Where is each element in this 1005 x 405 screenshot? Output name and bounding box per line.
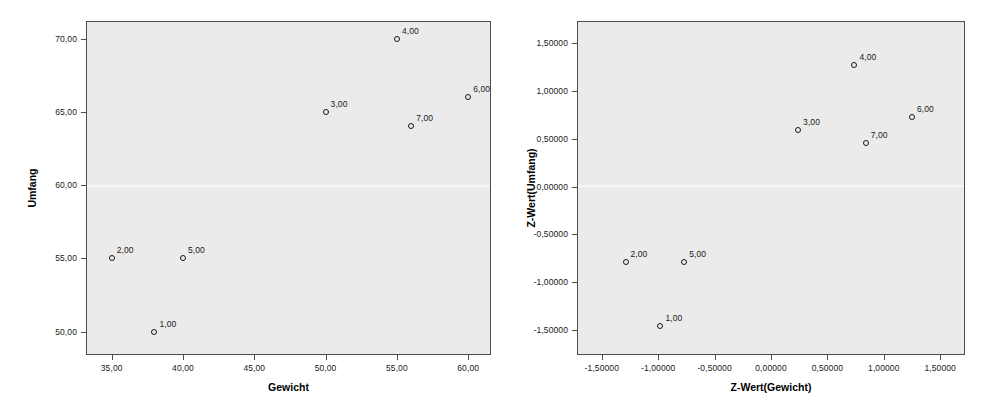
x-axis-tick — [397, 355, 398, 360]
y-axis-tick — [572, 91, 577, 92]
data-point-label: 3,00 — [803, 117, 820, 127]
data-point-label: 7,00 — [871, 130, 888, 140]
data-point-label: 4,00 — [402, 26, 419, 36]
x-axis-tick-label: -1,00000 — [641, 363, 675, 373]
y-axis-tick-label: 55,00 — [0, 253, 77, 263]
data-point[interactable] — [623, 259, 629, 265]
y-axis-tick-label: 0,50000 — [505, 134, 568, 144]
data-point-label: 3,00 — [331, 99, 348, 109]
x-axis-tick — [468, 355, 469, 360]
data-point-label: 1,00 — [665, 313, 682, 323]
x-axis-tick-label: 1,00000 — [868, 363, 899, 373]
x-axis-tick-label: 0,50000 — [812, 363, 843, 373]
scatter-chart-gewicht-umfang: 35,0040,0045,0050,0055,0060,0050,0055,00… — [0, 0, 505, 405]
x-axis-tick-label: 35,00 — [101, 363, 123, 373]
y-axis-tick-label: -1,00000 — [505, 277, 568, 287]
data-point-label: 5,00 — [689, 249, 706, 259]
y-axis-tick — [81, 185, 86, 186]
plot-area-left — [86, 21, 491, 355]
x-axis-title: Gewicht — [268, 381, 309, 393]
y-axis-tick-label: -0,50000 — [505, 229, 568, 239]
x-axis-tick-label: -1,50000 — [585, 363, 619, 373]
y-axis-title: Umfang — [26, 168, 38, 207]
y-axis-tick-label: 1,50000 — [505, 38, 568, 48]
x-axis-tick-label: 0,00000 — [755, 363, 786, 373]
x-axis-tick-label: 55,00 — [386, 363, 408, 373]
y-axis-tick-label: 50,00 — [0, 327, 77, 337]
y-axis-tick — [572, 282, 577, 283]
y-axis-tick — [81, 39, 86, 40]
y-axis-tick — [81, 258, 86, 259]
x-axis-tick — [254, 355, 255, 360]
data-point[interactable] — [323, 109, 329, 115]
x-axis-tick — [715, 355, 716, 360]
y-axis-tick — [572, 330, 577, 331]
y-axis-tick — [572, 139, 577, 140]
x-axis-tick — [326, 355, 327, 360]
y-axis-title: Z-Wert(Umfang) — [525, 148, 537, 227]
y-axis-tick — [572, 187, 577, 188]
x-axis-tick-label: 40,00 — [172, 363, 194, 373]
y-axis-tick-label: 1,00000 — [505, 86, 568, 96]
data-point-label: 2,00 — [631, 249, 648, 259]
data-point[interactable] — [909, 114, 915, 120]
data-point-label: 1,00 — [159, 319, 176, 329]
y-axis-tick-label: 65,00 — [0, 107, 77, 117]
x-axis-tick — [658, 355, 659, 360]
x-axis-tick-label: 45,00 — [243, 363, 265, 373]
scatter-chart-zwert: -1,50000-1,00000-0,500000,000000,500001,… — [505, 0, 1005, 405]
y-axis-tick — [572, 234, 577, 235]
x-axis-tick-label: 50,00 — [315, 363, 337, 373]
plot-area-right — [577, 21, 965, 355]
x-axis-tick — [771, 355, 772, 360]
y-axis-tick-label: -1,50000 — [505, 325, 568, 335]
x-axis-tick — [827, 355, 828, 360]
x-axis-tick-label: 1,50000 — [924, 363, 955, 373]
y-axis-tick-label: 60,00 — [0, 180, 77, 190]
data-point[interactable] — [394, 36, 400, 42]
data-point-label: 2,00 — [117, 245, 134, 255]
x-axis-tick — [112, 355, 113, 360]
data-point-label: 5,00 — [188, 245, 205, 255]
x-axis-tick — [183, 355, 184, 360]
data-point-label: 7,00 — [416, 113, 433, 123]
data-point-label: 6,00 — [473, 84, 490, 94]
x-axis-tick-label: 60,00 — [457, 363, 479, 373]
x-axis-tick-label: -0,50000 — [697, 363, 731, 373]
data-point[interactable] — [109, 255, 115, 261]
scatterplot-page: 35,0040,0045,0050,0055,0060,0050,0055,00… — [0, 0, 1005, 405]
y-axis-tick-label: 70,00 — [0, 34, 77, 44]
x-axis-title: Z-Wert(Gewicht) — [731, 381, 812, 393]
x-axis-tick — [602, 355, 603, 360]
y-axis-tick — [81, 112, 86, 113]
data-point-label: 4,00 — [859, 52, 876, 62]
y-axis-tick — [572, 43, 577, 44]
x-axis-tick — [884, 355, 885, 360]
data-point-label: 6,00 — [917, 104, 934, 114]
x-axis-tick — [940, 355, 941, 360]
y-axis-tick — [81, 332, 86, 333]
